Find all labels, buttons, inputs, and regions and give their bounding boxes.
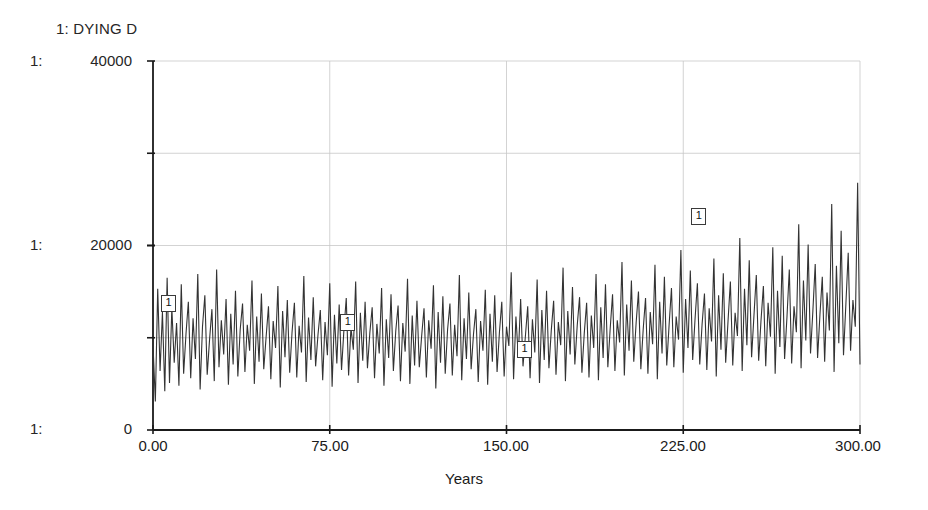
series-marker-2: 1 — [340, 314, 355, 331]
series-marker-3: 1 — [517, 341, 532, 358]
x-tick-label-225: 225.00 — [660, 437, 706, 454]
x-tick-label-300: 300.00 — [835, 437, 881, 454]
x-axis-title: Years — [0, 470, 928, 487]
gridlines — [153, 61, 860, 430]
series-marker-1: 1 — [161, 295, 176, 312]
chart-container: 1: DYING D 1: 1: 1: 40000 20000 0 0.00 7… — [0, 0, 928, 510]
x-tick-label-0: 0.00 — [138, 437, 167, 454]
x-tick-label-75: 75.00 — [311, 437, 349, 454]
plot-area — [0, 0, 928, 510]
x-tick-label-150: 150.00 — [483, 437, 529, 454]
series-marker-4: 1 — [691, 208, 706, 225]
